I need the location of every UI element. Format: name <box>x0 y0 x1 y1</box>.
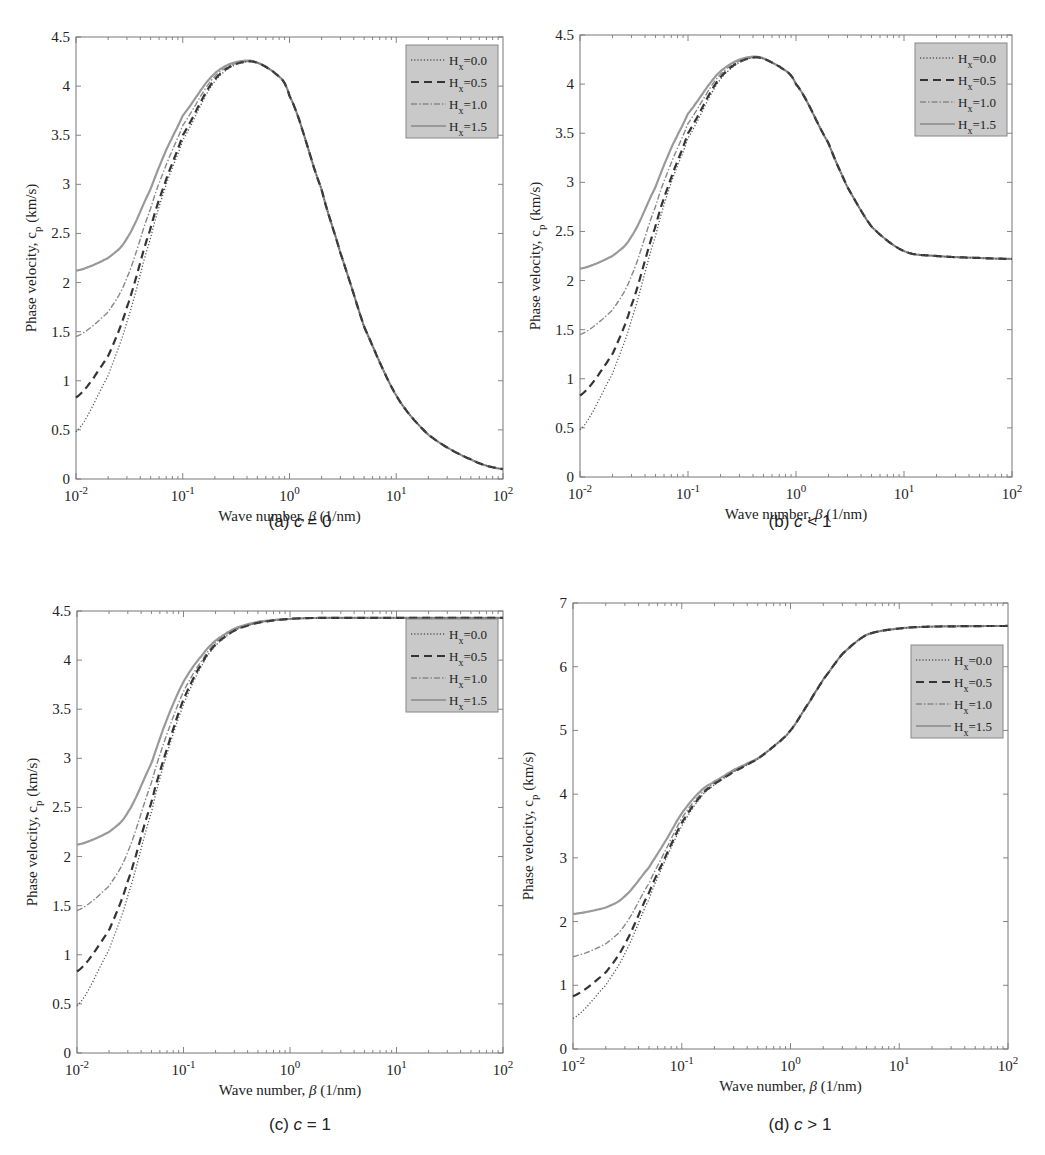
x-tick-label: 101 <box>386 1058 407 1078</box>
x-axis-label: Wave number, β (1/nm) <box>219 1082 361 1099</box>
y-tick-label: 2 <box>63 275 71 291</box>
y-tick-label: 4.5 <box>555 27 574 43</box>
y-tick-label: 2 <box>64 849 72 865</box>
y-tick-label: 2.5 <box>555 223 574 239</box>
y-tick-label: 1 <box>64 947 72 963</box>
y-tick-label: 3 <box>63 176 71 192</box>
caption-d-var: c <box>794 1115 803 1134</box>
y-tick-label: 2 <box>567 273 575 289</box>
panel-a: 00.511.522.533.544.510-210-1100101102Wav… <box>0 0 522 560</box>
x-tick-label: 101 <box>894 482 915 502</box>
x-tick-label: 10-2 <box>568 482 592 502</box>
caption-d-rel: > 1 <box>803 1115 832 1134</box>
panel-c: 00.511.522.533.544.510-210-1100101102Wav… <box>0 570 522 1155</box>
y-axis-label: Phase velocity, cp (km/s) <box>527 182 547 331</box>
y-tick-label: 1 <box>63 373 71 389</box>
legend: Hx=0.0Hx=0.5Hx=1.0Hx=1.5 <box>406 619 498 712</box>
x-tick-label: 101 <box>386 484 407 504</box>
x-tick-label: 101 <box>889 1054 910 1074</box>
y-tick-label: 4 <box>560 786 568 802</box>
x-tick-label: 100 <box>280 1058 301 1078</box>
y-tick-label: 4 <box>64 652 72 668</box>
y-tick-labels: 01234567 <box>560 595 568 1057</box>
y-tick-label: 3 <box>560 850 568 866</box>
y-tick-label: 1.5 <box>51 324 70 340</box>
caption-b-prefix: (b) <box>769 512 795 531</box>
y-tick-label: 3 <box>64 750 72 766</box>
x-tick-label: 100 <box>786 482 807 502</box>
x-tick-label: 10-1 <box>676 482 700 502</box>
x-tick-label: 10-1 <box>171 484 195 504</box>
y-tick-label: 5 <box>560 722 568 738</box>
legend: Hx=0.0Hx=0.5Hx=1.0Hx=1.5 <box>911 645 1003 738</box>
panel-b: 00.511.522.533.544.510-210-1100101102Wav… <box>522 0 1045 560</box>
caption-d: (d) c > 1 <box>690 1115 910 1135</box>
y-tick-label: 0 <box>567 469 575 485</box>
caption-c-rel: = 1 <box>302 1115 331 1134</box>
panel-d: 0123456710-210-1100101102Wave number, β … <box>522 570 1045 1155</box>
x-tick-labels: 10-210-1100101102 <box>561 1054 1018 1074</box>
legend: Hx=0.0Hx=0.5Hx=1.0Hx=1.5 <box>915 43 1007 136</box>
caption-a: (a) c = 0 <box>190 512 410 532</box>
x-tick-labels: 10-210-1100101102 <box>568 482 1022 502</box>
caption-b: (b) c < 1 <box>690 512 910 532</box>
y-tick-label: 6 <box>560 659 568 675</box>
y-tick-label: 3.5 <box>52 701 71 717</box>
y-tick-label: 2.5 <box>52 799 71 815</box>
chart-d: 0123456710-210-1100101102Wave number, β … <box>522 570 1045 1155</box>
y-tick-label: 1 <box>567 371 575 387</box>
x-tick-label: 100 <box>780 1054 801 1074</box>
caption-a-prefix: (a) <box>269 512 295 531</box>
y-tick-label: 1 <box>560 977 568 993</box>
x-tick-label: 10-1 <box>171 1058 195 1078</box>
y-tick-label: 2 <box>560 914 568 930</box>
y-tick-labels: 00.511.522.533.544.5 <box>555 27 574 485</box>
y-tick-label: 3 <box>567 174 575 190</box>
chart-a: 00.511.522.533.544.510-210-1100101102Wav… <box>0 0 522 560</box>
y-tick-label: 4.5 <box>51 29 70 45</box>
y-tick-labels: 00.511.522.533.544.5 <box>52 603 71 1061</box>
x-tick-label: 102 <box>998 1054 1019 1074</box>
legend: Hx=0.0Hx=0.5Hx=1.0Hx=1.5 <box>406 45 498 138</box>
y-tick-label: 0.5 <box>51 422 70 438</box>
x-tick-label: 102 <box>493 484 514 504</box>
y-tick-label: 3.5 <box>51 127 70 143</box>
y-tick-label: 3.5 <box>555 125 574 141</box>
caption-b-var: c <box>794 512 803 531</box>
y-axis-label: Phase velocity, cp (km/s) <box>23 184 43 333</box>
chart-c: 00.511.522.533.544.510-210-1100101102Wav… <box>0 570 522 1155</box>
y-tick-label: 0 <box>63 471 71 487</box>
y-tick-label: 4.5 <box>52 603 71 619</box>
x-tick-label: 10-1 <box>670 1054 694 1074</box>
y-tick-label: 0 <box>560 1041 568 1057</box>
x-tick-label: 10-2 <box>65 1058 89 1078</box>
caption-d-prefix: (d) <box>769 1115 795 1134</box>
y-tick-label: 4 <box>63 78 71 94</box>
y-tick-labels: 00.511.522.533.544.5 <box>51 29 70 487</box>
y-tick-label: 2.5 <box>51 225 70 241</box>
y-axis-label: Phase velocity, cp (km/s) <box>522 752 540 901</box>
x-tick-labels: 10-210-1100101102 <box>65 1058 513 1078</box>
y-tick-label: 1.5 <box>52 898 71 914</box>
y-axis-label: Phase velocity, cp (km/s) <box>24 758 44 907</box>
x-tick-label: 102 <box>1002 482 1023 502</box>
x-axis-label: Wave number, β (1/nm) <box>719 1078 861 1095</box>
y-tick-label: 7 <box>560 595 568 611</box>
x-tick-label: 10-2 <box>64 484 88 504</box>
y-tick-label: 0 <box>64 1045 72 1061</box>
x-tick-labels: 10-210-1100101102 <box>64 484 513 504</box>
y-tick-label: 4 <box>567 76 575 92</box>
y-tick-label: 0.5 <box>555 420 574 436</box>
x-tick-label: 102 <box>493 1058 514 1078</box>
caption-c: (c) c = 1 <box>190 1115 410 1135</box>
caption-a-var: c <box>294 512 303 531</box>
x-tick-label: 10-2 <box>561 1054 585 1074</box>
chart-b: 00.511.522.533.544.510-210-1100101102Wav… <box>522 0 1045 560</box>
caption-a-rel: = 0 <box>303 512 332 531</box>
caption-c-prefix: (c) <box>269 1115 294 1134</box>
y-tick-label: 0.5 <box>52 996 71 1012</box>
y-tick-label: 1.5 <box>555 322 574 338</box>
caption-c-var: c <box>294 1115 303 1134</box>
caption-b-rel: < 1 <box>803 512 832 531</box>
x-tick-label: 100 <box>279 484 300 504</box>
